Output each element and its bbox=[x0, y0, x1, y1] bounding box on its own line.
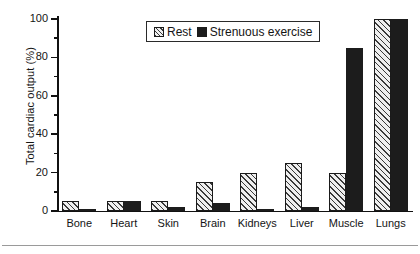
bar-liver-rest bbox=[285, 163, 302, 211]
bar-brain-rest bbox=[196, 182, 213, 211]
bar-muscle-rest bbox=[329, 173, 346, 211]
bar-heart-rest bbox=[107, 201, 124, 211]
bar-kidneys-strenuous-exercise bbox=[257, 209, 274, 211]
bar-lungs-rest bbox=[374, 19, 391, 211]
legend-entry-strenuous-exercise: Strenuous exercise bbox=[197, 25, 313, 39]
bar-kidneys-rest bbox=[240, 173, 257, 211]
y-axis-tick-label: 20 bbox=[8, 167, 48, 178]
y-axis-tick-label: 0 bbox=[8, 205, 48, 216]
bar-lungs-strenuous-exercise bbox=[391, 19, 408, 211]
y-axis-tick-label: 80 bbox=[8, 51, 48, 62]
bar-skin-rest bbox=[151, 201, 168, 211]
bar-skin-strenuous-exercise bbox=[168, 207, 185, 211]
bar-liver-strenuous-exercise bbox=[302, 207, 319, 211]
bar-brain-strenuous-exercise bbox=[213, 203, 230, 211]
x-axis-label-lungs: Lungs bbox=[351, 217, 420, 229]
bar-bone-rest bbox=[62, 201, 79, 211]
legend-entry-rest: Rest bbox=[154, 25, 192, 39]
cardiac-output-bar-chart: Total cardiac output (%) 020406080100 Bo… bbox=[0, 0, 420, 254]
legend-label-strenuous-exercise: Strenuous exercise bbox=[210, 25, 313, 39]
bar-heart-strenuous-exercise bbox=[124, 201, 141, 211]
y-axis-tick-label: 40 bbox=[8, 128, 48, 139]
legend-swatch-rest-icon bbox=[154, 27, 164, 37]
plot-area bbox=[57, 19, 413, 211]
bar-bone-strenuous-exercise bbox=[79, 209, 96, 211]
bar-muscle-strenuous-exercise bbox=[346, 48, 363, 211]
y-axis-tick-label: 60 bbox=[8, 90, 48, 101]
chart-legend: Rest Strenuous exercise bbox=[146, 21, 320, 42]
y-axis-tick-label: 100 bbox=[8, 13, 48, 24]
legend-label-rest: Rest bbox=[167, 25, 192, 39]
legend-swatch-strenuous-icon bbox=[197, 27, 207, 37]
footer-divider bbox=[2, 245, 418, 246]
